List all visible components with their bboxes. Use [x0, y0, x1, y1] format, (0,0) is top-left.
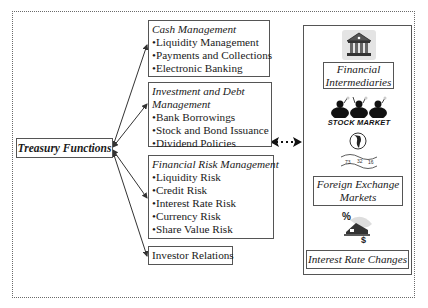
stock-market-label: STOCK MARKET: [321, 118, 397, 127]
foreign-exchange-line2: Markets: [314, 191, 402, 204]
financial-risk-title: Financial Risk Management: [152, 158, 273, 171]
list-item: •Liquidity Risk: [152, 171, 273, 184]
list-item: •Interest Rate Risk: [152, 197, 273, 210]
svg-text:$: $: [361, 235, 366, 244]
interest-rate-changes-box: Interest Rate Changes: [306, 250, 409, 269]
financial-intermediaries-line2: Intermediaries: [324, 76, 393, 89]
list-item: •Currency Risk: [152, 210, 273, 223]
cash-management-title: Cash Management: [152, 23, 269, 36]
list-item: •Dividend Policies: [152, 137, 271, 150]
list-item: •Credit Risk: [152, 184, 273, 197]
svg-text:16: 16: [368, 159, 374, 165]
svg-text:32: 32: [357, 158, 363, 164]
financial-intermediaries-box: Financial Intermediaries: [323, 62, 394, 89]
bidirectional-arrow: [270, 137, 302, 147]
svg-text:73: 73: [345, 159, 351, 165]
investment-debt-title-line1: Investment and Debt: [152, 85, 271, 98]
globe-icon: [347, 131, 369, 151]
interest-rate-changes-label: Interest Rate Changes: [307, 253, 408, 266]
investment-debt-box: Investment and Debt Management •Bank Bor…: [148, 82, 272, 147]
list-item: •Liquidity Management: [152, 36, 269, 49]
financial-risk-box: Financial Risk Management •Liquidity Ris…: [148, 155, 274, 239]
list-item: •Stock and Bond Issuance: [152, 124, 271, 137]
currency-rates-icon: 73 32 16: [340, 151, 378, 171]
foreign-exchange-box: Foreign Exchange Markets: [313, 176, 403, 206]
treasury-functions-label: Treasury Functions: [18, 142, 112, 154]
investor-relations-label: Investor Relations: [152, 249, 232, 262]
house-interest-icon: % $: [340, 210, 376, 244]
investment-debt-title-line2: Management: [152, 98, 271, 111]
list-item: •Electronic Banking: [152, 62, 269, 75]
bank-building-icon: [342, 30, 376, 60]
svg-text:%: %: [342, 211, 351, 222]
financial-intermediaries-line1: Financial: [324, 63, 393, 76]
foreign-exchange-line1: Foreign Exchange: [314, 178, 402, 191]
list-item: •Payments and Collections: [152, 49, 269, 62]
stock-market-traders-icon: [330, 96, 388, 118]
treasury-functions-box: Treasury Functions: [16, 138, 113, 158]
cash-management-box: Cash Management •Liquidity Management •P…: [148, 20, 270, 77]
investor-relations-box: Investor Relations: [148, 246, 233, 265]
list-item: •Bank Borrowings: [152, 111, 271, 124]
list-item: •Share Value Risk: [152, 223, 273, 236]
